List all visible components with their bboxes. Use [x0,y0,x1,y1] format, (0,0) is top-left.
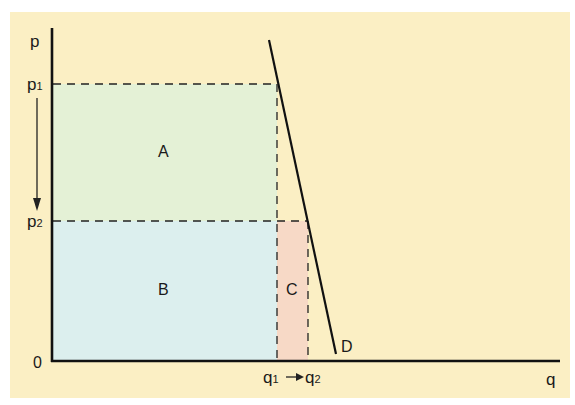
p2-label: p2 [27,212,43,231]
p1-label: p1 [27,75,43,94]
q1-label: q1 [263,368,279,387]
demand-diagram: p q 0 p1 p2 q1 q2 A B C D [0,0,575,405]
region-b-label: B [158,281,169,298]
region-a-label: A [158,143,169,160]
region-c-label: C [286,281,298,298]
x-axis-label: q [546,370,555,389]
demand-curve-label: D [341,338,353,355]
y-axis-label: p [30,32,39,51]
q2-label: q2 [305,368,321,387]
origin-label: 0 [33,354,42,371]
arrow-down-icon [33,198,41,211]
arrow-right-icon [296,373,304,381]
